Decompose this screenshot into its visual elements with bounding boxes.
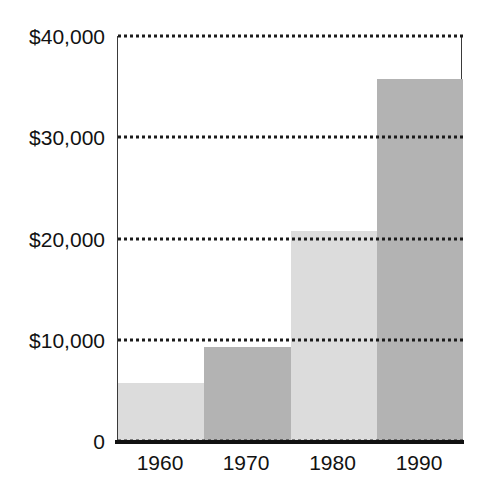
bar-1960 [118, 383, 204, 441]
bar-1980 [291, 231, 377, 441]
x-axis-label-1980: 1980 [289, 452, 376, 473]
bar-1990 [377, 79, 463, 441]
y-axis-label-40000: $40,000 [0, 26, 105, 47]
y-axis-label-10000: $10,000 [0, 330, 105, 351]
y-axis-label-20000: $20,000 [0, 229, 105, 250]
x-axis-label-1990: 1990 [376, 452, 462, 473]
y-axis-label-0: 0 [0, 431, 105, 452]
x-axis-baseline [115, 440, 464, 444]
x-axis-label-1960: 1960 [117, 452, 203, 473]
gridline-40000 [118, 35, 463, 38]
bar-chart: $40,000 $30,000 $20,000 $10,000 0 1960 1… [0, 0, 481, 488]
y-axis-label-30000: $30,000 [0, 127, 105, 148]
bar-1970 [204, 347, 290, 441]
x-axis-label-1970: 1970 [203, 452, 289, 473]
plot-area [117, 36, 462, 441]
